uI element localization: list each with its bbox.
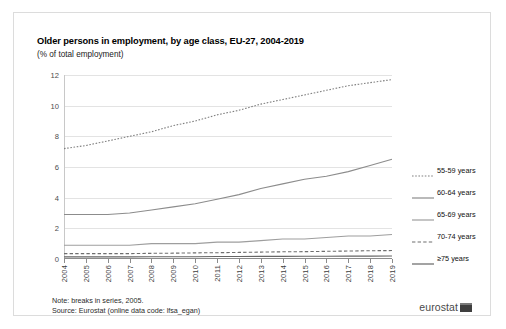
x-tick (239, 259, 240, 263)
x-tick (108, 259, 109, 263)
x-tick-label: 2016 (322, 265, 331, 282)
x-tick (151, 259, 152, 263)
x-tick (348, 259, 349, 263)
x-tick-label: 2007 (125, 265, 134, 282)
x-tick-label: 2019 (388, 265, 397, 282)
legend-label: 55-59 years (437, 166, 476, 175)
y-tick-label: 0 (55, 255, 59, 264)
chart-source: Source: Eurostat (online data code: lfsa… (52, 306, 200, 315)
x-tick-label: 2005 (81, 265, 90, 282)
legend-label: ≥75 years (437, 254, 469, 263)
x-tick (261, 259, 262, 263)
series-line (64, 234, 392, 245)
x-tick (392, 259, 393, 263)
eurostat-logo-icon (460, 303, 472, 312)
series-line (64, 159, 392, 214)
series-line (64, 80, 392, 149)
legend-line-icon (412, 254, 434, 262)
x-tick (173, 259, 174, 263)
y-tick-label: 2 (55, 224, 59, 233)
legend-label: 65-69 years (437, 210, 476, 219)
x-tick-label: 2014 (278, 265, 287, 282)
legend-label: 60-64 years (437, 188, 476, 197)
chart-subtitle: (% of total employment) (37, 50, 123, 59)
x-tick-label: 2004 (60, 265, 69, 282)
series-line (64, 251, 392, 254)
x-tick (195, 259, 196, 263)
x-tick-label: 2015 (300, 265, 309, 282)
eurostat-wordmark: eurostat (419, 301, 458, 313)
x-tick-label: 2011 (213, 265, 222, 282)
y-tick-label: 10 (51, 101, 59, 110)
y-tick-label: 4 (55, 193, 59, 202)
x-tick-label: 2009 (169, 265, 178, 282)
x-tick-label: 2018 (366, 265, 375, 282)
legend-label: 70-74 years (437, 232, 476, 241)
chart-title: Older persons in employment, by age clas… (37, 36, 304, 46)
x-tick-label: 2010 (191, 265, 200, 282)
x-tick-label: 2006 (103, 265, 112, 282)
x-tick (305, 259, 306, 263)
legend-item[interactable]: 60-64 years (412, 181, 504, 203)
y-tick-label: 8 (55, 132, 59, 141)
legend-line-icon (412, 210, 434, 218)
eurostat-brand: eurostat (419, 301, 472, 313)
chart-legend: 55-59 years60-64 years65-69 years70-74 y… (412, 159, 504, 269)
legend-line-icon (412, 166, 434, 174)
x-tick (86, 259, 87, 263)
chart-figure: Older persons in employment, by age clas… (13, 12, 491, 316)
x-tick (217, 259, 218, 263)
legend-line-icon (412, 188, 434, 196)
plot-area: 024681012 200420052006200720082009201020… (64, 75, 392, 259)
y-tick-label: 6 (55, 163, 59, 172)
x-tick (326, 259, 327, 263)
legend-item[interactable]: 65-69 years (412, 203, 504, 225)
x-tick (370, 259, 371, 263)
legend-item[interactable]: 70-74 years (412, 225, 504, 247)
series-line (64, 256, 392, 257)
x-tick (283, 259, 284, 263)
y-tick-label: 12 (51, 71, 59, 80)
x-tick-label: 2008 (147, 265, 156, 282)
legend-item[interactable]: 55-59 years (412, 159, 504, 181)
x-tick-label: 2012 (234, 265, 243, 282)
x-tick (130, 259, 131, 263)
series-lines (64, 75, 392, 259)
x-tick-label: 2017 (344, 265, 353, 282)
legend-item[interactable]: ≥75 years (412, 247, 504, 269)
legend-line-icon (412, 232, 434, 240)
x-tick-label: 2013 (256, 265, 265, 282)
x-tick (64, 259, 65, 263)
chart-note: Note: breaks in series, 2005. (52, 296, 144, 305)
